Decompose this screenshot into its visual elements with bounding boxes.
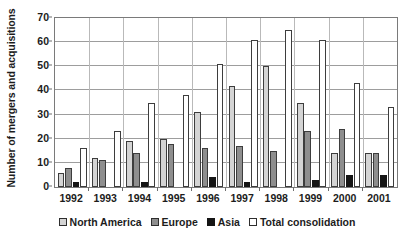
bar-group-1996: [192, 18, 226, 187]
bar-north-america-1997: [229, 86, 236, 187]
bar-europe-1993: [99, 160, 106, 187]
legend-label-total-consolidation: Total consolidation: [260, 217, 355, 228]
bar-total-consolidation-2000: [354, 83, 361, 187]
x-tick-label-1994: 1994: [122, 191, 156, 205]
bar-asia-1996: [209, 177, 216, 187]
x-tick-label-1992: 1992: [54, 191, 88, 205]
bar-total-consolidation-1995: [183, 95, 190, 187]
bar-asia-2001: [380, 175, 387, 187]
bar-north-america-1995: [160, 139, 167, 187]
plot-area: [54, 17, 398, 188]
bar-group-2000: [329, 18, 363, 187]
y-tick-mark-50: [49, 65, 52, 66]
legend-label-north-america: North America: [70, 217, 142, 228]
bar-asia-1994: [141, 182, 148, 187]
bar-total-consolidation-1998: [285, 30, 292, 187]
bar-total-consolidation-1999: [319, 40, 326, 187]
bar-north-america-1992: [58, 173, 65, 187]
legend-swatch-asia: [207, 218, 215, 226]
bar-group-2001: [363, 18, 397, 187]
bar-europe-1999: [304, 131, 311, 187]
bar-europe-1998: [270, 151, 277, 187]
x-tick-label-1995: 1995: [157, 191, 191, 205]
bar-north-america-1998: [263, 66, 270, 187]
bar-group-1994: [123, 18, 157, 187]
bar-group-1999: [294, 18, 328, 187]
y-tick-label-50: 50: [37, 60, 49, 71]
legend-swatch-total-consolidation: [249, 218, 257, 226]
bar-asia-1992: [73, 182, 80, 187]
x-tick-label-1998: 1998: [259, 191, 293, 205]
bar-europe-1997: [236, 146, 243, 187]
bar-group-1997: [226, 18, 260, 187]
x-tick-label-2001: 2001: [362, 191, 396, 205]
y-tick-label-70: 70: [37, 12, 49, 23]
legend-item-total-consolidation[interactable]: Total consolidation: [249, 217, 355, 228]
legend-swatch-europe: [151, 218, 159, 226]
bar-north-america-2001: [365, 153, 372, 187]
bar-chart: Number of mergers and acquisitions 01020…: [0, 0, 414, 240]
bar-north-america-2000: [331, 153, 338, 187]
y-tick-mark-20: [49, 137, 52, 138]
y-tick-label-20: 20: [37, 132, 49, 143]
legend-item-asia[interactable]: Asia: [207, 217, 240, 228]
bar-europe-1992: [65, 168, 72, 187]
bar-total-consolidation-1996: [217, 64, 224, 187]
bar-group-1995: [158, 18, 192, 187]
bar-asia-1997: [244, 182, 251, 187]
bar-asia-1999: [312, 180, 319, 187]
x-tick-label-1993: 1993: [88, 191, 122, 205]
x-tick-label-1999: 1999: [293, 191, 327, 205]
y-tick-label-30: 30: [37, 108, 49, 119]
y-tick-mark-60: [49, 41, 52, 42]
legend-item-europe[interactable]: Europe: [151, 217, 198, 228]
y-tick-label-10: 10: [37, 157, 49, 168]
bar-total-consolidation-1997: [251, 40, 258, 187]
y-axis-title: Number of mergers and acquisitions: [0, 0, 22, 196]
y-tick-mark-10: [49, 161, 52, 162]
bar-total-consolidation-1992: [80, 148, 87, 187]
bar-europe-1995: [168, 144, 175, 187]
y-tick-label-40: 40: [37, 84, 49, 95]
y-axis-tick-labels: 010203040506070: [20, 10, 52, 194]
bar-group-1992: [55, 18, 89, 187]
x-tick-label-1997: 1997: [225, 191, 259, 205]
bar-asia-2000: [346, 175, 353, 187]
bar-europe-1994: [133, 153, 140, 187]
legend-swatch-north-america: [59, 218, 67, 226]
y-tick-mark-0: [49, 186, 52, 187]
x-tick-label-2000: 2000: [328, 191, 362, 205]
bar-north-america-1994: [126, 141, 133, 187]
bar-north-america-1993: [92, 158, 99, 187]
y-tick-label-60: 60: [37, 36, 49, 47]
chart-legend: North AmericaEuropeAsiaTotal consolidati…: [0, 212, 414, 232]
y-tick-mark-70: [49, 17, 52, 18]
bar-total-consolidation-1994: [148, 103, 155, 188]
legend-label-asia: Asia: [218, 217, 240, 228]
legend-label-europe: Europe: [162, 217, 198, 228]
x-axis-tick-labels: 1992199319941995199619971998199920002001: [54, 191, 398, 209]
bar-europe-1996: [202, 148, 209, 187]
y-tick-mark-40: [49, 89, 52, 90]
bar-group-1998: [260, 18, 294, 187]
bar-north-america-1996: [194, 112, 201, 187]
x-tick-label-1996: 1996: [191, 191, 225, 205]
bar-total-consolidation-1993: [114, 131, 121, 187]
bar-europe-2000: [339, 129, 346, 187]
bar-europe-2001: [373, 153, 380, 187]
y-axis-title-label: Number of mergers and acquisitions: [5, 8, 17, 187]
bar-total-consolidation-2001: [388, 107, 395, 187]
y-tick-mark-30: [49, 113, 52, 114]
bar-group-1993: [89, 18, 123, 187]
bar-north-america-1999: [297, 103, 304, 188]
legend-item-north-america[interactable]: North America: [59, 217, 142, 228]
